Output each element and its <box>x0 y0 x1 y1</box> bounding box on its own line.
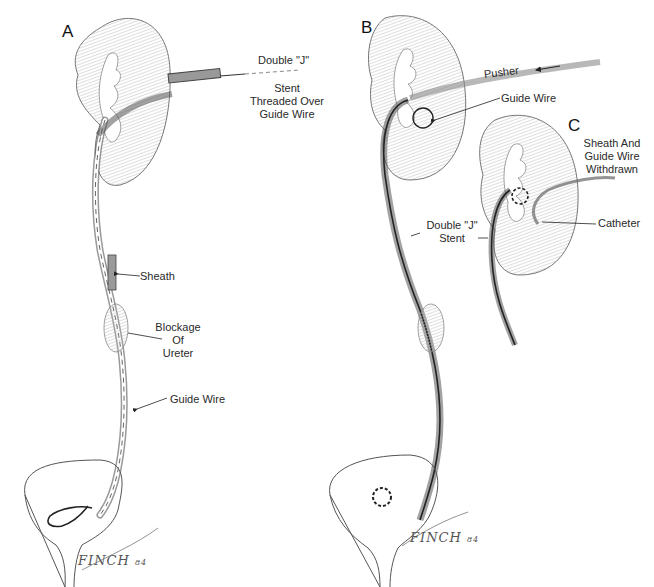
label-double-j-a: Double "J" <box>258 54 309 67</box>
bladder-b <box>330 455 438 587</box>
label-withdrawn-line3: Withdrawn <box>572 163 652 176</box>
label-guide-wire-a: Guide Wire <box>170 393 225 406</box>
blockage-b <box>418 304 444 352</box>
kidney-a <box>75 18 170 185</box>
panel-letter-a: A <box>62 22 73 42</box>
signature-name-b: FINCH <box>410 530 462 545</box>
label-double-j-b-line1: Double "J" <box>420 219 484 232</box>
label-withdrawn-line1: Sheath And <box>572 137 652 150</box>
signature-year-b: 84 <box>467 535 479 544</box>
label-blockage: Blockage Of Ureter <box>148 321 208 360</box>
stent-tube-a <box>168 69 221 83</box>
label-withdrawn-line2: Guide Wire <box>572 150 652 163</box>
label-blockage-line3: Ureter <box>148 347 208 360</box>
panel-letter-b: B <box>361 18 372 38</box>
label-stent-line1: Stent <box>246 82 328 95</box>
label-stent-threaded: Stent Threaded Over Guide Wire <box>246 82 328 121</box>
artist-signature-a: FINCH 84 <box>78 553 147 568</box>
label-blockage-line2: Of <box>148 334 208 347</box>
label-stent-line2: Threaded Over <box>246 95 328 108</box>
panel-letter-c: C <box>568 116 580 136</box>
label-guide-wire-b: Guide Wire <box>501 92 556 105</box>
sheath-a <box>108 255 116 290</box>
label-double-j-b-line2: Stent <box>420 232 484 245</box>
label-sheath-withdrawn: Sheath And Guide Wire Withdrawn <box>572 137 652 176</box>
pigtail-a <box>48 506 92 527</box>
blockage-a <box>104 304 128 352</box>
label-sheath: Sheath <box>140 270 175 283</box>
label-double-j-stent-b: Double "J" Stent <box>420 219 484 245</box>
label-blockage-line1: Blockage <box>148 321 208 334</box>
signature-name-a: FINCH <box>78 553 130 568</box>
signature-year-a: 84 <box>135 558 147 567</box>
panel-b <box>330 16 600 587</box>
artist-signature-b: FINCH 84 <box>410 530 479 545</box>
label-catheter: Catheter <box>598 217 640 230</box>
coil-bladder-b <box>373 488 391 506</box>
label-stent-line3: Guide Wire <box>246 108 328 121</box>
